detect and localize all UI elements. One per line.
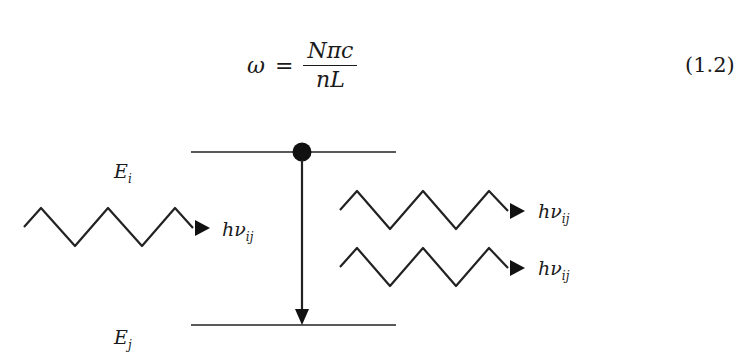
transition-arrowhead-icon <box>295 309 309 325</box>
energy-level-diagram <box>0 0 742 364</box>
emitted-photon-label-1: hνij <box>538 200 569 226</box>
incident-photon-wave-icon <box>24 208 210 246</box>
lower-level-label: Ej <box>114 326 132 352</box>
emitted-photon-wave-icon-1 <box>340 191 525 229</box>
emitted-photon-label-2: hνij <box>538 257 569 283</box>
upper-level-label: Ei <box>114 160 132 186</box>
incident-photon-label: hνij <box>222 218 253 244</box>
emitted-photon-wave-icon-2 <box>340 248 525 286</box>
electron-dot <box>293 143 312 162</box>
